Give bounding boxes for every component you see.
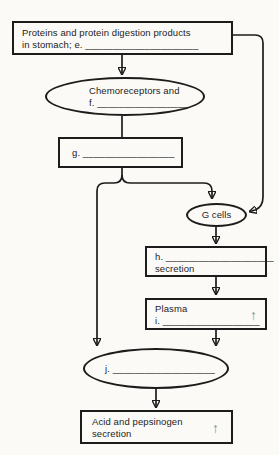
chemoreceptors-line1: Chemoreceptors and (89, 85, 203, 97)
g-blank-box: g. _________________ (58, 137, 183, 168)
j-blank-ellipse: j. ___________________ (83, 348, 229, 389)
proteins-box-line1: Proteins and protein digestion products (22, 27, 227, 39)
h-blank-line: h. ____________________ (155, 251, 265, 263)
connector-g-to-gcells-right-branch (122, 175, 212, 198)
proteins-box-line2-blank-e: in stomach; e. _____________________ (22, 39, 227, 51)
acid-box-line2: secretion (92, 428, 231, 440)
increase-up-arrow-icon: ↑ (212, 421, 219, 435)
h-secretion-box: h. ____________________ secretion (145, 246, 267, 277)
g-cells-label: G cells (202, 209, 232, 221)
chemoreceptors-ellipse: Chemoreceptors and f. _________________ (45, 77, 205, 116)
plasma-label: Plasma (155, 303, 265, 315)
proteins-in-stomach-box: Proteins and protein digestion products … (12, 21, 233, 55)
connector-g-to-j-left-branch (97, 175, 122, 345)
increase-up-arrow-icon: ↑ (250, 308, 257, 322)
plasma-box: Plasma i. __________________ ↑ (145, 298, 267, 330)
g-cells-ellipse: G cells (186, 203, 247, 227)
g-blank-label: g. _________________ (72, 147, 181, 159)
chemoreceptors-line2-blank-f: f. _________________ (89, 97, 203, 109)
acid-pepsinogen-box: Acid and pepsinogen secretion ↑ (80, 410, 233, 444)
plasma-blank-i: i. __________________ (155, 315, 265, 327)
j-blank-label: j. ___________________ (105, 363, 227, 375)
connector-feedback-proteins-to-gcells (233, 35, 263, 212)
h-secretion-label: secretion (155, 263, 265, 275)
acid-box-line1: Acid and pepsinogen (92, 416, 231, 428)
flowchart-diagram: Proteins and protein digestion products … (0, 0, 279, 455)
